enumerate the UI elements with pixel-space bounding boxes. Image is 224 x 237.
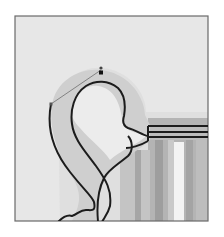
direction-handle-point[interactable] (99, 66, 102, 69)
anchor-point[interactable] (99, 71, 103, 75)
photo-background (15, 16, 208, 221)
start-anchor-point[interactable] (50, 103, 53, 106)
illustration-canvas (0, 0, 224, 237)
